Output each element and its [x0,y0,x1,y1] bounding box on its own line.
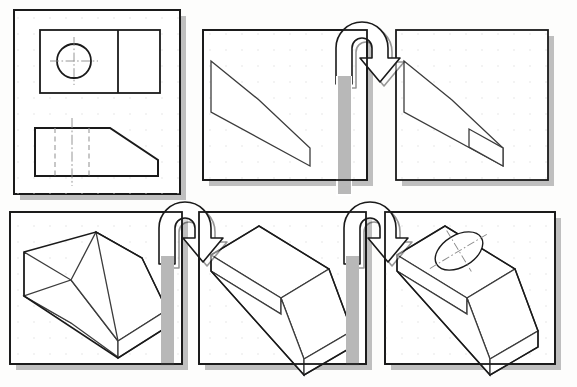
figure-root: Construction of an isometric pictorial f… [0,0,577,387]
arrow-3-descending-stem [346,256,359,366]
panel-6-isometric-solid-with-hole[interactable] [385,212,561,375]
arrow-2-descending-stem [161,256,174,366]
panel-3-isometric-base-edge[interactable] [396,30,554,186]
top-view-group [40,30,160,93]
panel-1-multiview-drawing[interactable] [14,10,186,200]
arrow-1-descending-stem [338,76,351,194]
isometric-construction-figure [0,0,577,387]
